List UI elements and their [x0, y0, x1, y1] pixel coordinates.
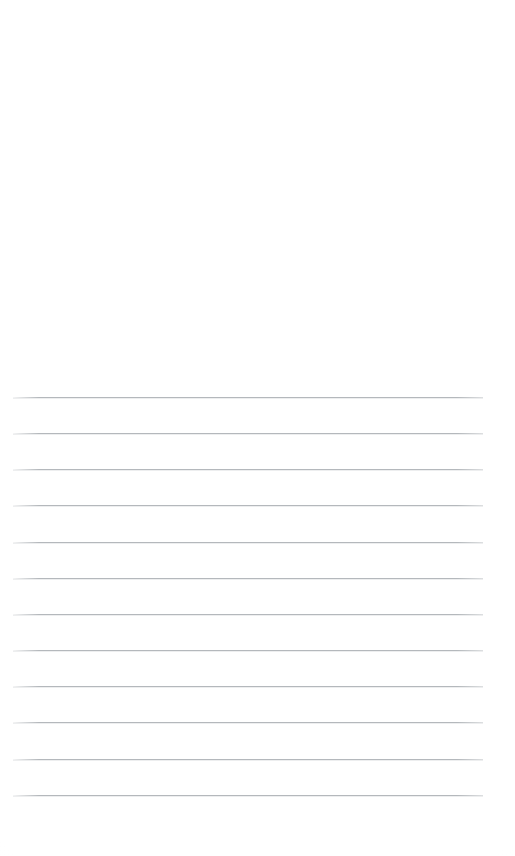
rule-line: [13, 686, 483, 687]
rule-line: [13, 650, 483, 651]
rule-line: [13, 397, 483, 398]
rule-line: [13, 614, 483, 615]
scanned-page: [0, 0, 515, 856]
rule-line: [13, 578, 483, 579]
ruled-lines-area: [0, 390, 515, 800]
blank-bottom-margin: [0, 796, 515, 856]
rule-line: [13, 722, 483, 723]
rule-line: [13, 759, 483, 760]
blank-upper-area: [0, 0, 515, 390]
rule-line: [13, 542, 483, 543]
rule-line: [13, 469, 483, 470]
rule-line: [13, 433, 483, 434]
rule-line: [13, 505, 483, 506]
